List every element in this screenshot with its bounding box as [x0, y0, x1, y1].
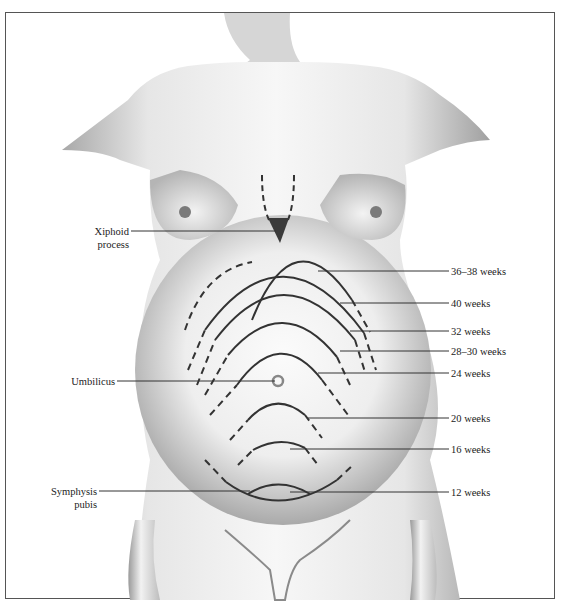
right-nipple — [370, 206, 382, 218]
left-nipple — [179, 206, 191, 218]
label-symphysis-line2: pubis — [74, 499, 97, 510]
label-32-weeks: 32 weeks — [451, 326, 490, 337]
label-12-weeks: 12 weeks — [451, 487, 490, 498]
fundal-height-illustration: Xiphoid process Umbilicus Symphysis pubi… — [0, 0, 566, 608]
left-labels: Xiphoid process Umbilicus Symphysis pubi… — [51, 226, 130, 510]
label-16-weeks: 16 weeks — [451, 444, 490, 455]
label-umbilicus: Umbilicus — [71, 376, 115, 387]
label-28-30-weeks: 28–30 weeks — [451, 346, 506, 357]
right-labels: 36–38 weeks 40 weeks 32 weeks 28–30 week… — [451, 266, 506, 498]
label-xiphoid-line2: process — [98, 239, 130, 250]
body-silhouette — [62, 13, 490, 600]
neck — [224, 13, 330, 70]
label-36-38-weeks: 36–38 weeks — [451, 266, 506, 277]
label-symphysis-line1: Symphysis — [51, 486, 97, 497]
label-40-weeks: 40 weeks — [451, 298, 490, 309]
label-24-weeks: 24 weeks — [451, 368, 490, 379]
abdomen — [135, 215, 431, 525]
label-xiphoid-line1: Xiphoid — [95, 226, 130, 237]
label-20-weeks: 20 weeks — [451, 413, 490, 424]
